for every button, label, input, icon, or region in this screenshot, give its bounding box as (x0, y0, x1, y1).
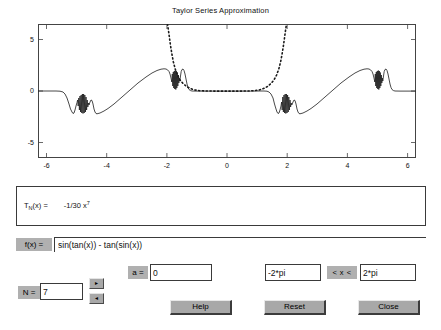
x-max-input[interactable] (360, 264, 416, 281)
a-label: a = (128, 266, 148, 279)
taylor-formula-box: TN(x) =-1/30 x7 (16, 186, 426, 226)
x-tick-label: 6 (397, 162, 419, 169)
formula-paren: (x) = (33, 201, 48, 210)
y-tick-label: 0 (12, 87, 34, 94)
plot-canvas (38, 24, 416, 158)
taylor-formula-text: TN(x) =-1/30 x7 (24, 200, 90, 211)
close-button[interactable]: Close (358, 300, 420, 315)
x-tick-label: 4 (336, 162, 358, 169)
increment-n-button[interactable]: ▸ (89, 278, 104, 289)
x-tick-label: -4 (96, 162, 118, 169)
function-input-row: f(x) = (16, 237, 426, 254)
n-label: N = (18, 286, 40, 299)
plot-panel: Taylor Series Approximation (0, 0, 441, 180)
function-input[interactable] (54, 237, 426, 252)
x-tick-label: 2 (276, 162, 298, 169)
n-order-input[interactable] (40, 283, 83, 300)
formula-exponent: 7 (87, 200, 90, 206)
fx-label: f(x) = (16, 238, 52, 251)
x-tick-label: 0 (216, 162, 238, 169)
decrement-n-button[interactable]: ◂ (89, 293, 104, 304)
plot-title: Taylor Series Approximation (0, 6, 441, 15)
range-label: < x < (327, 266, 357, 279)
taylor-curve (168, 24, 287, 91)
reset-button[interactable]: Reset (264, 300, 326, 315)
help-button[interactable]: Help (170, 300, 232, 315)
formula-rhs: -1/30 x (64, 201, 87, 210)
expansion-point-input[interactable] (150, 264, 212, 281)
x-min-input[interactable] (265, 264, 321, 281)
x-tick-label: -2 (156, 162, 178, 169)
x-tick-label: -6 (36, 162, 58, 169)
y-tick-label: 5 (12, 36, 34, 43)
y-tick-label: -5 (12, 139, 34, 146)
